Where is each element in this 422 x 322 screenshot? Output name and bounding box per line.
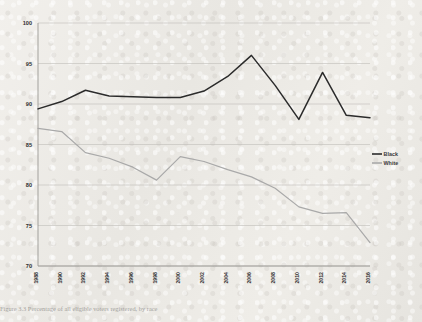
figure-caption: Figure 3.3 Percentage of all eligible vo… xyxy=(0,305,422,312)
x-axis-tick-2012: 2012 xyxy=(318,272,324,284)
y-axis-tick-100: 100 xyxy=(23,20,32,26)
x-axis-tick-1988: 1988 xyxy=(33,272,39,284)
x-axis-tick-2002: 2002 xyxy=(199,272,205,284)
x-axis-tick-1996: 1996 xyxy=(128,272,134,284)
y-axis-tick-70: 70 xyxy=(26,263,32,269)
series-line-black xyxy=(38,55,370,119)
chart-canvas: 7075808590951001988199019921994199619982… xyxy=(0,0,422,322)
x-axis-tick-2008: 2008 xyxy=(270,272,276,284)
x-axis-tick-2004: 2004 xyxy=(223,272,229,284)
legend-label-black: Black xyxy=(384,151,398,157)
y-axis-tick-75: 75 xyxy=(26,223,32,229)
y-axis-tick-85: 85 xyxy=(26,142,32,148)
y-axis-tick-95: 95 xyxy=(26,61,32,67)
legend-label-white: White xyxy=(384,160,399,166)
x-axis-tick-2016: 2016 xyxy=(365,272,371,284)
x-axis-tick-2006: 2006 xyxy=(246,272,252,284)
y-axis-tick-90: 90 xyxy=(26,101,32,107)
y-axis-tick-80: 80 xyxy=(26,182,32,188)
line-chart: 7075808590951001988199019921994199619982… xyxy=(0,0,422,322)
x-axis-tick-2000: 2000 xyxy=(175,272,181,284)
x-axis-tick-1992: 1992 xyxy=(80,272,86,284)
x-axis-tick-2010: 2010 xyxy=(294,272,300,284)
x-axis-tick-1998: 1998 xyxy=(152,272,158,284)
x-axis-tick-1990: 1990 xyxy=(57,272,63,284)
figure-caption-container: Figure 3.3 Percentage of all eligible vo… xyxy=(0,305,422,322)
x-axis-tick-1994: 1994 xyxy=(104,272,110,284)
x-axis-tick-2014: 2014 xyxy=(341,272,347,284)
